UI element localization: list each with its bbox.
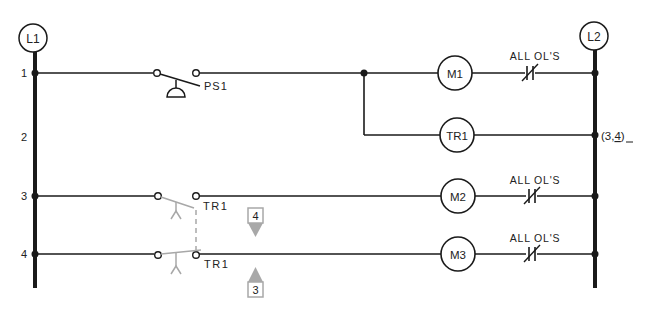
tr1-coil-label: TR1	[446, 130, 468, 142]
l1-label: L1	[26, 32, 40, 46]
rung-1	[32, 56, 599, 97]
m2-coil-label: M2	[450, 191, 466, 203]
m3-coil-label: M3	[450, 249, 466, 261]
tr1-contact-label-4: TR1	[204, 258, 229, 270]
m1-coil-label: M1	[447, 68, 463, 80]
rung-number-4: 4	[21, 248, 27, 260]
overload-label-3: ALL OL'S	[510, 174, 561, 186]
rung-number-1: 1	[21, 67, 27, 79]
indicator-4-label: 4	[252, 210, 258, 222]
l2-label: L2	[587, 30, 601, 44]
rung-number-3: 3	[21, 190, 27, 202]
cross-reference: (3,4)	[601, 130, 625, 142]
rung-number-2: 2	[21, 131, 27, 143]
overload-label-4: ALL OL'S	[510, 232, 561, 244]
ps1-label: PS1	[204, 80, 228, 92]
tr1-contact-rung-3	[161, 197, 196, 250]
ladder-diagram: L1 L2 1 2 3 4 PS1 M1 ALL OL'S	[0, 0, 648, 313]
tr1-contact-label-3: TR1	[203, 200, 228, 212]
rung-2	[364, 73, 599, 152]
indicator-3-label: 3	[252, 284, 258, 296]
rail-l2	[580, 22, 608, 288]
overload-label-1: ALL OL'S	[510, 50, 561, 62]
